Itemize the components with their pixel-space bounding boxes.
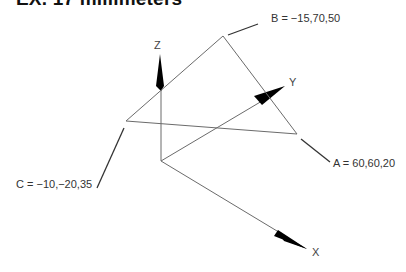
z-arrow-icon bbox=[156, 54, 164, 91]
y-arrow-icon bbox=[254, 86, 285, 105]
y-axis-line bbox=[161, 101, 262, 161]
edge-ba bbox=[223, 36, 297, 134]
x-axis-label: X bbox=[312, 246, 320, 258]
3d-coordinate-diagram: Z Y X B = −15,70,50 A = 60,60,20 C = −10… bbox=[0, 0, 406, 272]
axes bbox=[161, 88, 282, 234]
edge-ca bbox=[126, 121, 297, 134]
leader-b bbox=[228, 24, 258, 35]
z-axis-label: Z bbox=[154, 39, 161, 51]
leader-a bbox=[301, 139, 330, 162]
leader-c bbox=[97, 128, 124, 188]
point-c-label: C = −10,−20,35 bbox=[16, 178, 92, 190]
point-b-label: B = −15,70,50 bbox=[271, 12, 340, 24]
y-axis-label: Y bbox=[289, 76, 297, 88]
x-axis-line bbox=[161, 161, 282, 234]
triangle-abc bbox=[126, 36, 297, 134]
x-arrow-icon-fill bbox=[274, 230, 307, 249]
leader-lines bbox=[97, 24, 330, 188]
edge-cb bbox=[126, 36, 223, 121]
point-a-label: A = 60,60,20 bbox=[333, 157, 395, 169]
